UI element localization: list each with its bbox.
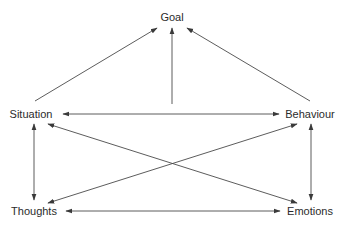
edge-group: [34, 28, 311, 211]
goal-diagram: Goal Situation Behaviour Thoughts Emotio…: [0, 0, 346, 228]
arrow-behaviour-goal: [187, 28, 310, 101]
node-behaviour: Behaviour: [285, 108, 335, 121]
node-emotions: Emotions: [287, 205, 333, 218]
arrow-situation-goal: [35, 28, 157, 101]
node-situation: Situation: [10, 108, 53, 121]
node-goal: Goal: [160, 11, 183, 24]
node-thoughts: Thoughts: [11, 205, 57, 218]
